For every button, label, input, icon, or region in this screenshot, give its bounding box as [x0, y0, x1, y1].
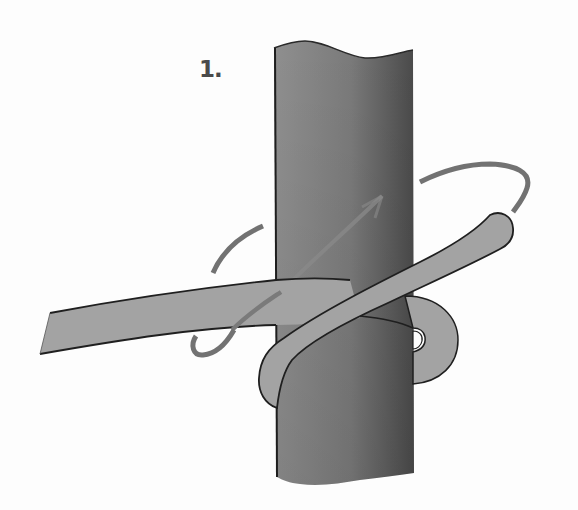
arrow-hook	[193, 330, 234, 355]
step-number-label: 1.	[199, 58, 222, 81]
arrow-arc-top-right	[420, 164, 528, 212]
knot-diagram: 1.	[0, 0, 578, 510]
arrow-arc-left	[213, 226, 263, 273]
post	[274, 41, 414, 485]
knot-illustration	[0, 0, 578, 510]
loop-gap	[413, 331, 422, 349]
